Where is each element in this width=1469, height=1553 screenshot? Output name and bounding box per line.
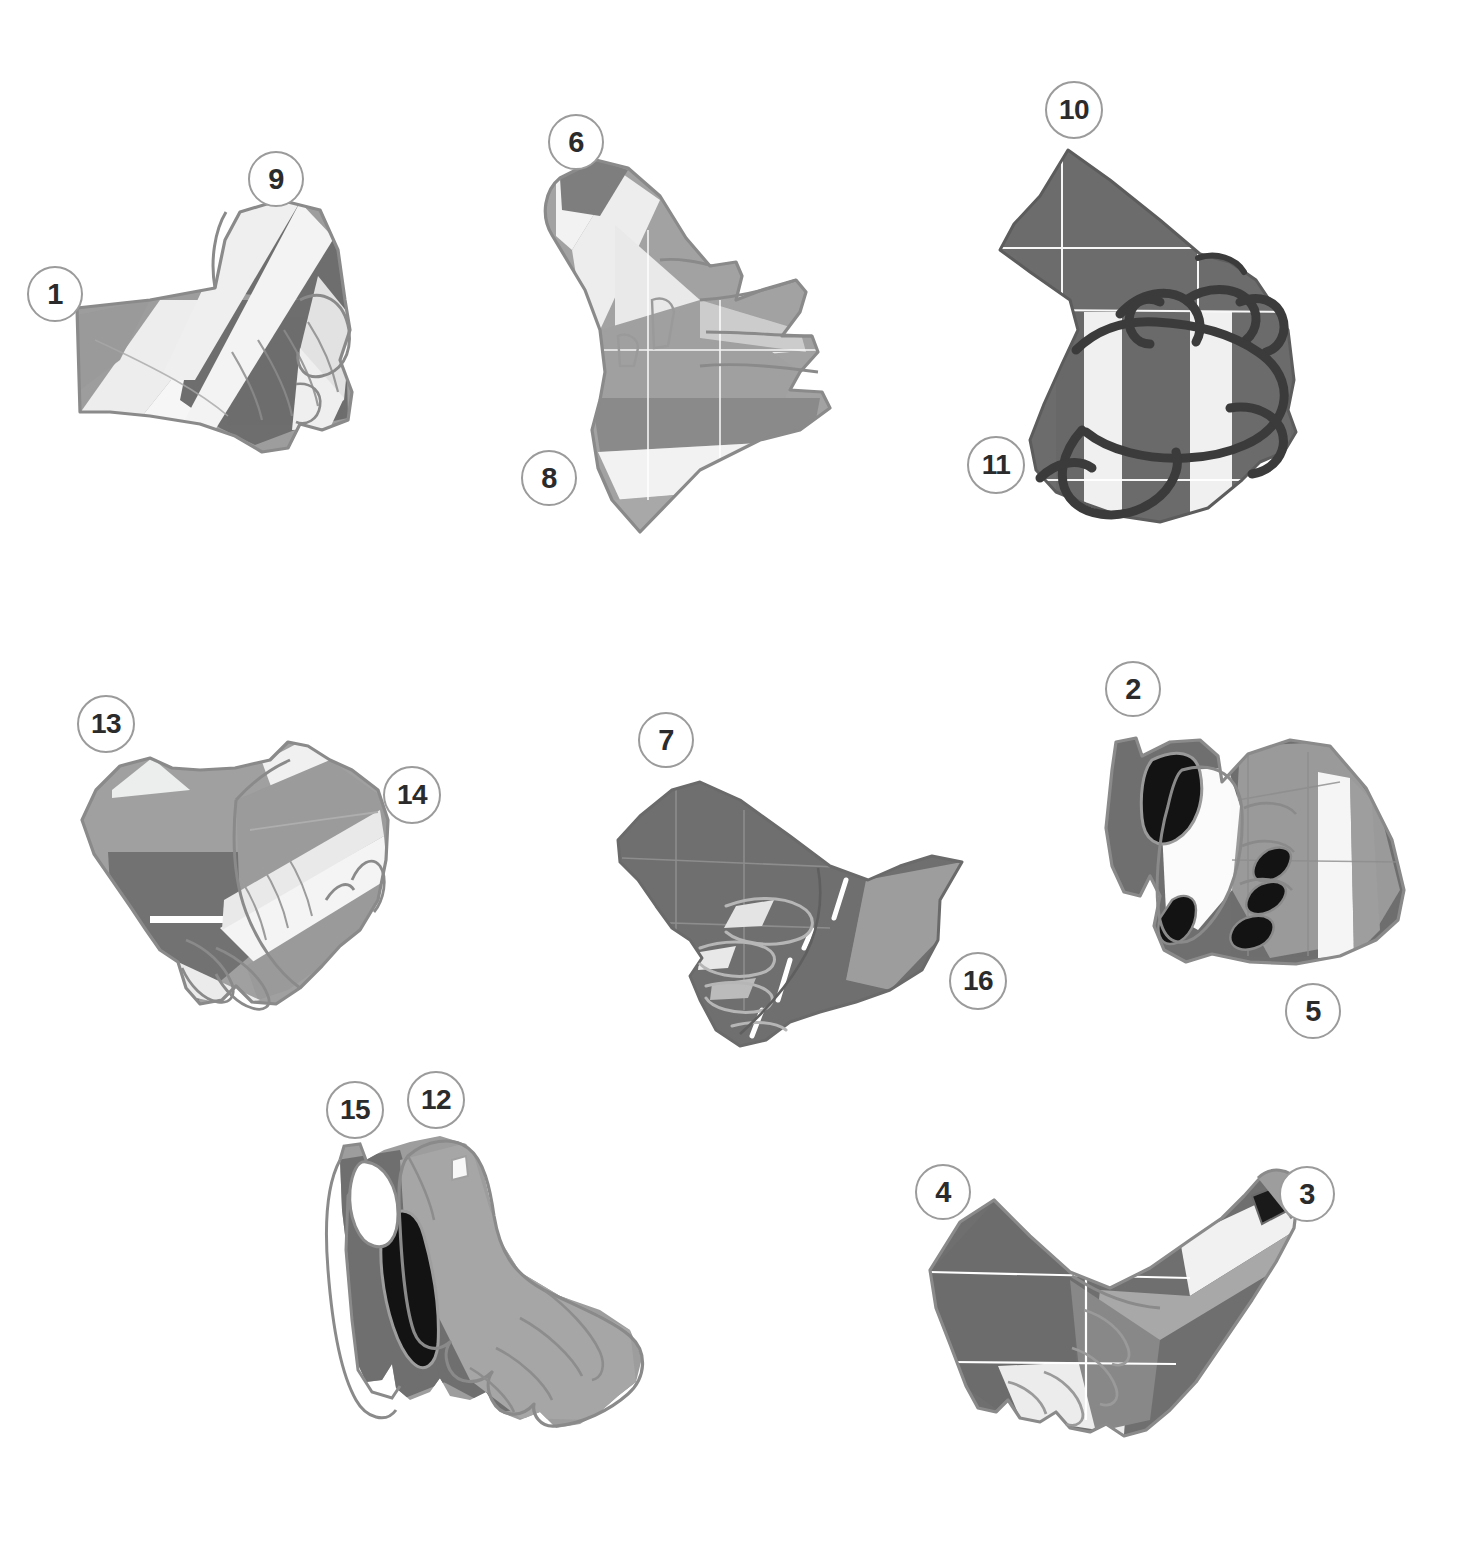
- callout-number: 6: [568, 128, 584, 157]
- callout-6[interactable]: 6: [548, 114, 604, 170]
- glove-diagram-top-right: [990, 140, 1320, 540]
- glove-diagram-mid-right: [1090, 730, 1420, 980]
- callout-8[interactable]: 8: [521, 450, 577, 506]
- callout-number: 9: [268, 165, 284, 194]
- callout-7[interactable]: 7: [638, 712, 694, 768]
- callout-11[interactable]: 11: [967, 436, 1025, 494]
- callout-number: 4: [935, 1178, 951, 1207]
- callout-15[interactable]: 15: [326, 1081, 384, 1139]
- glove-illustration-canvas: [0, 0, 1469, 1553]
- callout-13[interactable]: 13: [77, 695, 135, 753]
- callout-number: 14: [397, 781, 427, 809]
- callout-12[interactable]: 12: [407, 1071, 465, 1129]
- callout-number: 3: [1299, 1180, 1315, 1209]
- glove-diagram-top-left: [60, 190, 380, 470]
- callout-16[interactable]: 16: [949, 952, 1007, 1010]
- callout-14[interactable]: 14: [383, 766, 441, 824]
- callout-4[interactable]: 4: [915, 1164, 971, 1220]
- glove-diagram-mid-center: [600, 770, 980, 1070]
- callout-2[interactable]: 2: [1105, 661, 1161, 717]
- glove-diagram-mid-left: [70, 740, 410, 1020]
- callout-number: 2: [1125, 675, 1141, 704]
- callout-number: 10: [1059, 96, 1089, 124]
- callout-1[interactable]: 1: [27, 266, 83, 322]
- callout-9[interactable]: 9: [248, 151, 304, 207]
- callout-number: 15: [340, 1096, 370, 1124]
- callout-number: 12: [421, 1086, 451, 1114]
- callout-3[interactable]: 3: [1279, 1166, 1335, 1222]
- callout-5[interactable]: 5: [1285, 983, 1341, 1039]
- callout-number: 7: [658, 726, 674, 755]
- illustration-page: 19681011131471625151243: [0, 0, 1469, 1553]
- glove-diagram-bottom-left: [320, 1120, 660, 1450]
- callout-number: 13: [91, 710, 121, 738]
- callout-number: 5: [1305, 997, 1321, 1026]
- callout-10[interactable]: 10: [1045, 81, 1103, 139]
- callout-number: 8: [541, 464, 557, 493]
- callout-number: 16: [963, 967, 993, 995]
- glove-diagram-bottom-right: [910, 1170, 1330, 1460]
- callout-number: 1: [47, 280, 63, 309]
- callout-number: 11: [982, 451, 1011, 479]
